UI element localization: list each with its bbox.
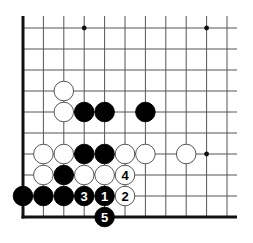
move-number-label: 5 <box>101 210 108 225</box>
white-stone-circle <box>95 165 115 185</box>
black-stone-circle <box>13 186 33 206</box>
white-stone <box>54 102 74 122</box>
black-stone: 3 <box>74 186 94 206</box>
black-stone-circle <box>95 102 115 122</box>
black-stone: 1 <box>95 186 115 206</box>
white-stone-circle <box>54 102 74 122</box>
white-stone: 4 <box>115 165 135 185</box>
white-stone-circle <box>34 165 54 185</box>
black-stone <box>136 102 156 122</box>
black-stone <box>74 144 94 164</box>
white-stone <box>34 144 54 164</box>
white-stone <box>54 81 74 101</box>
black-stone: 5 <box>95 207 115 227</box>
star-point-icon <box>204 152 209 157</box>
white-stone <box>115 144 135 164</box>
black-stone <box>34 186 54 206</box>
move-number-label: 2 <box>121 189 128 204</box>
move-number-label: 1 <box>101 189 108 204</box>
black-stone-circle <box>74 144 94 164</box>
black-stone-circle <box>34 186 54 206</box>
white-stone-circle <box>115 144 135 164</box>
black-stone-circle <box>54 165 74 185</box>
black-stone <box>95 102 115 122</box>
black-stone <box>54 186 74 206</box>
move-number-label: 4 <box>121 168 129 183</box>
star-point-icon <box>204 26 209 31</box>
black-stone-circle <box>54 186 74 206</box>
black-stone <box>74 102 94 122</box>
black-stone-circle <box>74 102 94 122</box>
black-stone-circle <box>136 102 156 122</box>
white-stone <box>54 144 74 164</box>
star-point-icon <box>82 26 87 31</box>
white-stone-circle <box>54 81 74 101</box>
white-stone-circle <box>136 144 156 164</box>
white-stone <box>34 165 54 185</box>
black-stone <box>13 186 33 206</box>
white-stone-circle <box>176 144 196 164</box>
white-stone-circle <box>74 165 94 185</box>
white-stone <box>74 165 94 185</box>
white-stone-circle <box>34 144 54 164</box>
white-stone: 2 <box>115 186 135 206</box>
black-stone <box>54 165 74 185</box>
white-stone <box>136 144 156 164</box>
black-stone-circle <box>95 144 115 164</box>
white-stone <box>176 144 196 164</box>
black-stone <box>95 144 115 164</box>
white-stone <box>95 165 115 185</box>
white-stone-circle <box>54 144 74 164</box>
go-board: 43125 <box>0 0 253 243</box>
move-number-label: 3 <box>81 189 88 204</box>
